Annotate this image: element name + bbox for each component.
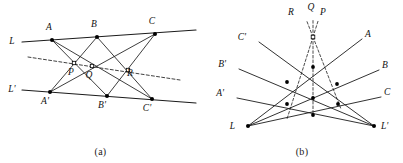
dashed-ray-stub-R: [313, 21, 318, 37]
node-4: [311, 96, 315, 100]
label-B: B: [382, 60, 388, 70]
label-Q: Q: [308, 2, 315, 12]
label-Ap: A': [215, 88, 225, 98]
label-C: C: [384, 87, 391, 97]
dashed-ray-R: [287, 37, 313, 119]
ray-Lprime-to-Cp: [259, 42, 374, 126]
label-A: A: [45, 22, 52, 32]
label-Bp: B': [218, 59, 227, 69]
label-Q: Q: [86, 70, 93, 80]
point-Q: [90, 64, 93, 67]
point-Bp: [105, 94, 109, 98]
point-L: [246, 124, 250, 128]
label-C: C: [149, 16, 156, 26]
point-B: [95, 35, 99, 39]
label-R: R: [126, 68, 133, 78]
figure-page: ABCA'B'C'PQRLL' (a) ABCC'B'A'RQPLL' (b): [0, 0, 403, 163]
label-Cp: C': [143, 103, 152, 113]
node-3: [335, 82, 339, 86]
label-Bp: B': [98, 100, 107, 110]
diagram-a-svg: ABCA'B'C'PQRLL': [0, 0, 201, 163]
node-7: [311, 113, 315, 117]
label-Cp: C': [238, 32, 247, 42]
point-L-prime: [372, 124, 376, 128]
point-P: [72, 61, 75, 64]
label-P: P: [319, 7, 326, 17]
label-line-L-prime: L': [7, 84, 16, 94]
segment-A-to-Cp: [52, 40, 152, 99]
diagram-b-solid-rays: [237, 39, 381, 126]
point-C: [153, 32, 157, 36]
caption-a: (a): [0, 146, 201, 157]
diagram-b-svg: ABCC'B'A'RQPLL': [201, 0, 403, 163]
node-5: [285, 102, 289, 106]
diagram-a-pappus-line: [28, 57, 180, 80]
point-Ap: [48, 90, 52, 94]
ray-L-to-A: [248, 39, 362, 126]
diagram-a-cross-segments: [50, 34, 155, 99]
diagram-b-points: [246, 35, 376, 128]
point-A: [50, 38, 54, 42]
label-R: R: [287, 7, 294, 17]
label-B: B: [91, 19, 97, 29]
node-1: [311, 65, 315, 69]
pappus-line-PQR: [28, 57, 180, 80]
label-vertex-L: L: [229, 121, 235, 131]
dashed-ray-stub-P: [307, 21, 313, 37]
label-A: A: [364, 29, 371, 39]
label-vertex-L-prime: L': [380, 121, 389, 131]
node-6: [336, 102, 340, 106]
label-Ap: A': [40, 96, 50, 106]
label-P: P: [67, 67, 74, 77]
point-concurrency-O: [311, 35, 315, 39]
segment-B-to-Cp: [97, 37, 152, 99]
caption-b: (b): [201, 146, 403, 157]
node-2: [285, 80, 289, 84]
diagram-a-container: ABCA'B'C'PQRLL' (a): [0, 0, 201, 163]
diagram-b-container: ABCC'B'A'RQPLL' (b): [201, 0, 403, 163]
label-line-L: L: [8, 36, 14, 46]
point-Cp: [150, 97, 154, 101]
